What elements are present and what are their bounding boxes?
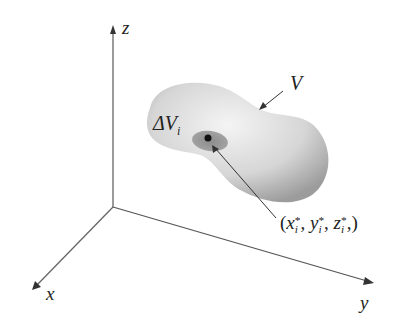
- point-label-x: x: [286, 212, 294, 233]
- x-axis-label: x: [46, 283, 54, 305]
- diagram-canvas: [0, 0, 401, 333]
- y-axis-label: y: [360, 292, 368, 314]
- point-label-z: z: [334, 212, 341, 233]
- z-axis-label: z: [122, 17, 129, 39]
- z-axis: [110, 25, 116, 207]
- sample-point: [205, 135, 212, 142]
- z-arrow-icon: [110, 25, 116, 34]
- subregion-label-subscript: i: [177, 124, 180, 138]
- point-label-y: y: [310, 212, 318, 233]
- subregion-label-main: ΔV: [153, 112, 177, 134]
- point-label-z-sub: i: [341, 225, 347, 234]
- subregion-label: ΔVi: [153, 112, 180, 139]
- point-label-y-sub: i: [318, 225, 324, 234]
- solid-region-v: [147, 83, 328, 202]
- v-pointer-arrow-icon: [259, 102, 267, 110]
- point-label-close-paren: ): [351, 212, 357, 233]
- x-axis: [32, 207, 113, 290]
- y-arrow-icon: [363, 277, 374, 285]
- point-label-x-sub: i: [295, 225, 301, 234]
- region-label-v: V: [290, 72, 302, 95]
- point-label: (x*i, y*i, z*i,): [280, 212, 358, 234]
